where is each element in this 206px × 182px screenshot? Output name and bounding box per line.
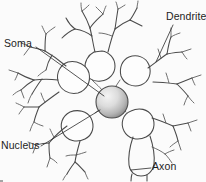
neuron-illustration <box>0 0 206 182</box>
neuron-diagram-figure: Soma Dendrite Nucleus Axon <box>0 0 206 182</box>
label-nucleus: Nucleus <box>1 140 40 151</box>
label-axon: Axon <box>152 161 176 172</box>
label-soma: Soma <box>4 38 32 49</box>
label-dendrite: Dendrite <box>166 11 206 22</box>
nucleus-sphere <box>96 86 128 118</box>
